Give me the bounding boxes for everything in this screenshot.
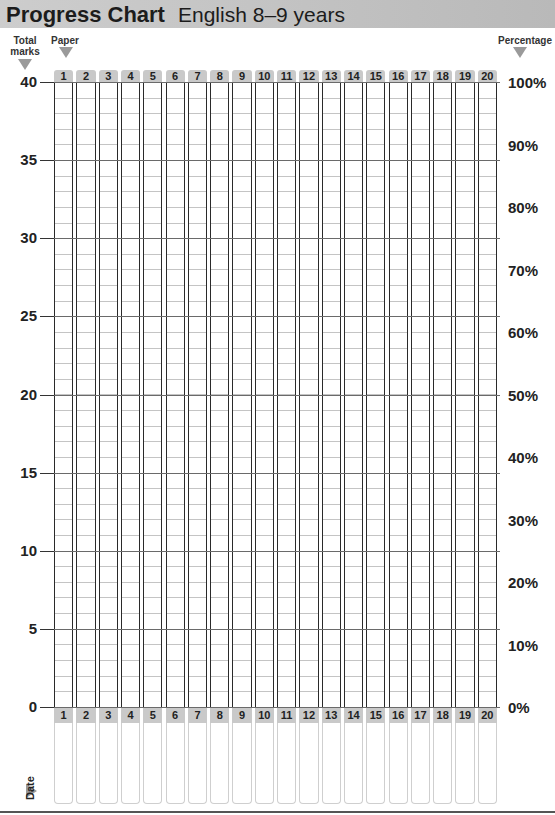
paper-number-top: 3 (99, 70, 118, 82)
marks-tick-mark (40, 473, 54, 474)
paper-column-6: 66 (166, 0, 185, 815)
paper-number-top: 18 (433, 70, 452, 82)
marks-tick-label: 15 (0, 464, 37, 481)
marks-tick-mark (40, 707, 54, 708)
date-box[interactable] (99, 723, 118, 804)
date-label: Date (24, 776, 36, 800)
paper-number-bottom: 1 (54, 708, 73, 723)
paper-number-bottom: 11 (277, 708, 296, 723)
date-box[interactable] (188, 723, 207, 804)
paper-column-19: 1919 (455, 0, 474, 815)
paper-number-top: 4 (121, 70, 140, 82)
paper-column-11: 1111 (277, 0, 296, 815)
marks-tick-label: 0 (0, 698, 37, 715)
percentage-label: Percentage (495, 35, 555, 46)
paper-number-top: 7 (188, 70, 207, 82)
paper-column-17: 1717 (411, 0, 430, 815)
date-box[interactable] (232, 723, 251, 804)
paper-number-top: 9 (232, 70, 251, 82)
percentage-arrow-icon (513, 47, 527, 58)
paper-number-top: 11 (277, 70, 296, 82)
paper-number-bottom: 19 (455, 708, 474, 723)
paper-column-1: 11 (54, 0, 73, 815)
date-box[interactable] (121, 723, 140, 804)
major-gridline (54, 629, 500, 630)
total-marks-line2: marks (10, 46, 40, 57)
paper-column-15: 1515 (366, 0, 385, 815)
marks-tick-label: 25 (0, 307, 37, 324)
paper-number-top: 12 (299, 70, 318, 82)
total-marks-label: Total marks (10, 35, 40, 57)
percentage-tick-label: 0% (508, 699, 530, 716)
paper-column-5: 55 (143, 0, 162, 815)
paper-number-top: 5 (143, 70, 162, 82)
paper-column-3: 33 (99, 0, 118, 815)
percentage-tick-label: 60% (508, 324, 538, 341)
paper-number-top: 17 (411, 70, 430, 82)
paper-column-7: 77 (188, 0, 207, 815)
date-box[interactable] (322, 723, 341, 804)
date-box[interactable] (478, 723, 497, 804)
major-gridline (54, 316, 500, 317)
marks-tick-mark (40, 82, 54, 83)
percentage-tick-label: 30% (508, 512, 538, 529)
date-box[interactable] (433, 723, 452, 804)
major-gridline (54, 473, 500, 474)
paper-number-bottom: 7 (188, 708, 207, 723)
paper-column-10: 1010 (255, 0, 274, 815)
paper-number-bottom: 20 (478, 708, 497, 723)
date-box[interactable] (344, 723, 363, 804)
paper-number-bottom: 16 (389, 708, 408, 723)
marks-tick-label: 20 (0, 386, 37, 403)
paper-number-bottom: 4 (121, 708, 140, 723)
paper-number-bottom: 14 (344, 708, 363, 723)
paper-number-bottom: 8 (210, 708, 229, 723)
date-box[interactable] (166, 723, 185, 804)
paper-number-bottom: 15 (366, 708, 385, 723)
paper-number-bottom: 3 (99, 708, 118, 723)
paper-number-top: 10 (255, 70, 274, 82)
paper-column-4: 44 (121, 0, 140, 815)
paper-number-top: 16 (389, 70, 408, 82)
paper-number-top: 14 (344, 70, 363, 82)
paper-number-top: 8 (210, 70, 229, 82)
date-box[interactable] (76, 723, 95, 804)
marks-tick-label: 35 (0, 151, 37, 168)
date-box[interactable] (54, 723, 73, 804)
marks-tick-label: 10 (0, 542, 37, 559)
paper-number-top: 19 (455, 70, 474, 82)
date-box[interactable] (277, 723, 296, 804)
percentage-tick-label: 50% (508, 387, 538, 404)
paper-number-bottom: 13 (322, 708, 341, 723)
date-box[interactable] (143, 723, 162, 804)
paper-number-bottom: 18 (433, 708, 452, 723)
paper-number-top: 20 (478, 70, 497, 82)
paper-number-top: 15 (366, 70, 385, 82)
marks-tick-label: 5 (0, 620, 37, 637)
paper-number-bottom: 2 (76, 708, 95, 723)
date-box[interactable] (455, 723, 474, 804)
paper-number-top: 2 (76, 70, 95, 82)
marks-tick-mark (40, 629, 54, 630)
date-box[interactable] (255, 723, 274, 804)
paper-column-13: 1313 (322, 0, 341, 815)
marks-tick-mark (40, 160, 54, 161)
date-box[interactable] (366, 723, 385, 804)
date-box[interactable] (210, 723, 229, 804)
major-gridline (54, 160, 500, 161)
paper-number-bottom: 10 (255, 708, 274, 723)
paper-number-top: 1 (54, 70, 73, 82)
percentage-tick-label: 100% (508, 74, 546, 91)
paper-number-bottom: 12 (299, 708, 318, 723)
date-box[interactable] (299, 723, 318, 804)
date-box[interactable] (389, 723, 408, 804)
percentage-tick-label: 90% (508, 137, 538, 154)
paper-column-9: 99 (232, 0, 251, 815)
date-box[interactable] (411, 723, 430, 804)
paper-number-bottom: 17 (411, 708, 430, 723)
marks-tick-label: 30 (0, 229, 37, 246)
paper-number-top: 6 (166, 70, 185, 82)
marks-tick-mark (40, 238, 54, 239)
marks-tick-mark (40, 395, 54, 396)
paper-number-bottom: 9 (232, 708, 251, 723)
